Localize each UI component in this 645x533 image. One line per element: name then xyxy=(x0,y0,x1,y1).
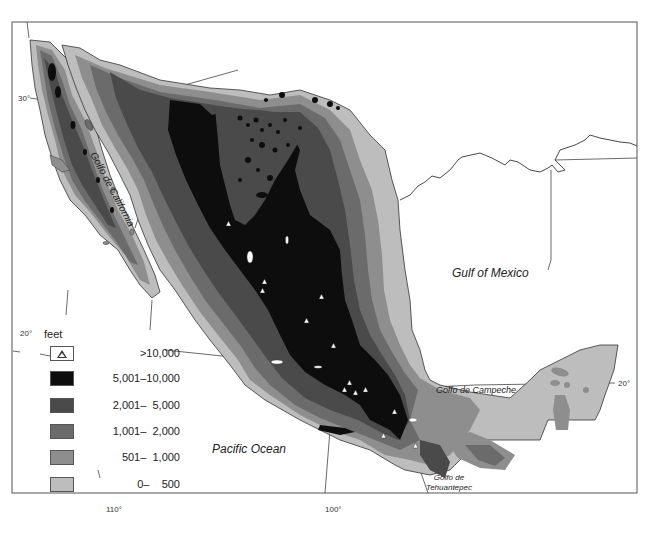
legend-item-5001-10000: 5,001–10,000 xyxy=(50,371,180,391)
legend-label: >10,000 xyxy=(140,346,180,361)
lon-110-label: 110° xyxy=(106,505,122,514)
legend-item-1001-2000: 1,001– 2,000 xyxy=(50,424,180,444)
lat-30-label: 30° xyxy=(18,94,30,103)
label-pacific-ocean: Pacific Ocean xyxy=(212,442,286,456)
legend-label: 2,001– 5,000 xyxy=(113,398,180,413)
legend-item-above-10000: >10,000 xyxy=(50,346,180,366)
lat-20-left-label: 20° xyxy=(20,329,32,338)
label-tehuantepec-line2: Tehuantepec xyxy=(426,483,472,493)
legend-swatch xyxy=(50,424,74,439)
legend-item-0-500: 0– 500 xyxy=(50,477,180,497)
legend-item-2001-5000: 2,001– 5,000 xyxy=(50,398,180,418)
label-golfo-de-campeche: Golfo de Campeche xyxy=(436,385,516,395)
label-tehuantepec-line1: Golfo de xyxy=(426,473,472,483)
legend-label: 5,001–10,000 xyxy=(113,371,180,386)
legend-swatch xyxy=(50,371,74,386)
legend-swatch xyxy=(50,450,74,465)
legend-swatch xyxy=(50,346,74,361)
lat-20-right-label: 20° xyxy=(618,379,630,388)
legend-item-501-1000: 501– 1,000 xyxy=(50,450,180,470)
legend-label: 501– 1,000 xyxy=(122,450,180,465)
legend-label: 1,001– 2,000 xyxy=(113,424,180,439)
legend-label: 0– 500 xyxy=(137,477,180,492)
legend-swatch xyxy=(50,477,74,492)
lon-100-label: 100° xyxy=(325,505,342,514)
legend-unit: feet xyxy=(44,328,62,340)
label-golfo-de-tehuantepec: Golfo de Tehuantepec xyxy=(426,473,472,493)
triangle-icon xyxy=(57,350,67,358)
label-gulf-of-mexico: Gulf of Mexico xyxy=(452,266,529,280)
legend-swatch xyxy=(50,398,74,413)
